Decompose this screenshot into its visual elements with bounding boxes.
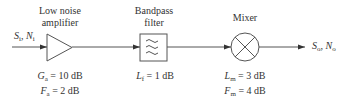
filter-params: Lf = 1 dB <box>125 70 185 85</box>
mixer-params: Lm = 3 dB Fm = 4 dB <box>215 70 275 98</box>
amplifier-title: Low noise amplifier <box>28 5 92 29</box>
input-label: Si, Ni <box>14 30 35 45</box>
amplifier-params: Ga = 10 dB Fa = 2 dB <box>30 70 90 98</box>
amplifier-triangle <box>47 34 72 61</box>
output-label: So, No <box>312 40 336 55</box>
filter-title: Bandpass filter <box>122 5 186 29</box>
filter-box <box>140 34 167 61</box>
mixer-title: Mixer <box>215 12 275 24</box>
